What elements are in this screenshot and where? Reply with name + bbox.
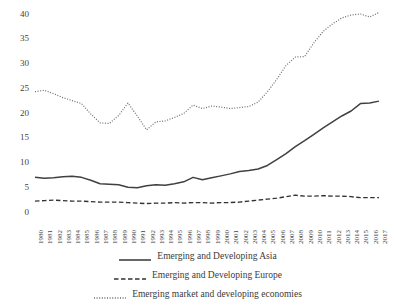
x-tick-label: 2000	[224, 230, 231, 244]
x-tick-label: 1987	[103, 230, 110, 244]
legend-label: Emerging market and developing economies	[132, 289, 302, 300]
legend-item: Emerging and Developing Asia	[0, 248, 396, 264]
x-tick-label: 2009	[308, 230, 315, 244]
line-chart: 0510152025303540 19801981198219831984198…	[0, 0, 396, 305]
y-tick-label: 25	[20, 84, 29, 93]
legend-swatch-solid	[119, 251, 151, 261]
x-tick-label: 2007	[289, 230, 296, 244]
series-line	[35, 13, 379, 130]
x-tick-label: 2010	[317, 230, 324, 244]
x-tick-label: 1999	[215, 230, 222, 244]
x-tick-label: 2004	[261, 230, 268, 244]
chart-legend: Emerging and Developing AsiaEmerging and…	[0, 248, 396, 304]
x-tick-label: 1991	[140, 230, 147, 244]
x-tick-label: 1994	[168, 230, 175, 244]
legend-swatch-dashed	[114, 270, 146, 280]
x-tick-label: 2013	[345, 230, 352, 244]
x-tick-label: 1996	[187, 230, 194, 244]
x-tick-label: 1998	[205, 230, 212, 244]
y-tick-label: 40	[20, 10, 29, 19]
x-tick-label: 2003	[252, 230, 259, 244]
x-tick-label: 1997	[196, 230, 203, 244]
x-tick-label: 2014	[354, 230, 361, 244]
x-tick-label: 1985	[84, 230, 91, 244]
x-tick-label: 2005	[270, 230, 277, 244]
y-tick-label: 15	[20, 133, 29, 142]
y-tick-label: 20	[20, 109, 29, 118]
y-tick-label: 5	[25, 183, 30, 192]
plot-area	[35, 14, 379, 212]
x-tick-label: 1986	[94, 230, 101, 244]
series-line	[35, 101, 379, 188]
legend-label: Emerging and Developing Europe	[152, 270, 282, 281]
legend-item: Emerging and Developing Europe	[0, 267, 396, 283]
x-tick-label: 1995	[177, 230, 184, 244]
y-axis: 0510152025303540	[0, 0, 33, 230]
x-tick-label: 2008	[298, 230, 305, 244]
y-tick-label: 35	[20, 34, 29, 43]
x-tick-label: 2002	[243, 230, 250, 244]
series-line	[35, 195, 379, 203]
x-tick-label: 2015	[363, 230, 370, 244]
x-tick-label: 2016	[373, 230, 380, 244]
x-tick-label: 1983	[66, 230, 73, 244]
x-tick-label: 2001	[233, 230, 240, 244]
x-tick-label: 2011	[326, 230, 333, 244]
plot-svg	[35, 14, 379, 212]
x-tick-label: 1980	[38, 230, 45, 244]
x-tick-label: 1982	[57, 230, 64, 244]
x-tick-label: 2012	[336, 230, 343, 244]
x-tick-label: 1989	[122, 230, 129, 244]
y-tick-label: 0	[25, 208, 30, 217]
y-tick-label: 10	[20, 158, 29, 167]
x-tick-label: 1990	[131, 230, 138, 244]
x-tick-label: 2006	[280, 230, 287, 244]
legend-swatch-dotted	[94, 289, 126, 299]
x-axis: 1980198119821983198419851986198719881989…	[35, 214, 379, 248]
y-tick-label: 30	[20, 59, 29, 68]
x-tick-label: 2017	[382, 230, 389, 244]
x-tick-label: 1981	[47, 230, 54, 244]
x-tick-label: 1984	[75, 230, 82, 244]
x-tick-label: 1992	[150, 230, 157, 244]
x-tick-label: 1993	[159, 230, 166, 244]
x-tick-label: 1988	[112, 230, 119, 244]
legend-item: Emerging market and developing economies	[0, 286, 396, 302]
legend-label: Emerging and Developing Asia	[157, 251, 276, 262]
